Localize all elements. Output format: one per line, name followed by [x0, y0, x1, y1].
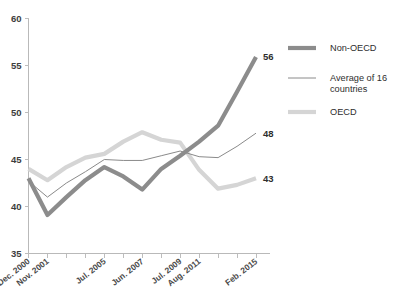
series-line-non-oecd	[29, 57, 257, 215]
x-tick-label: Jul. 2005	[74, 256, 108, 286]
y-tick-label: 60	[11, 13, 22, 24]
y-tick-label: 40	[11, 201, 22, 212]
legend-label-non-oecd: Non-OECD	[330, 43, 377, 53]
y-tick-label: 50	[11, 107, 22, 118]
x-tick-label: Feb. 2015	[223, 256, 260, 288]
legend-label-oecd: OECD	[330, 107, 357, 117]
y-tick-label: 55	[11, 60, 22, 71]
end-label-average-of-16-countries: 48	[263, 128, 274, 139]
series-end-labels: 564843	[263, 51, 274, 183]
series-lines	[29, 57, 257, 215]
x-axis-tick-labels: Dec. 2000Nov. 2001Jul. 2005Jun. 2007Jul.…	[0, 256, 259, 288]
legend-label-average-line1: Average of 16	[330, 73, 387, 83]
end-label-non-oecd: 56	[263, 51, 274, 62]
y-tick-label: 45	[11, 154, 22, 165]
legend-label-average-line2: countries	[330, 84, 368, 94]
end-label-oecd: 43	[263, 173, 274, 184]
x-axis	[29, 254, 271, 258]
y-axis: 354045505560	[11, 13, 29, 259]
chart-container: 354045505560 564843 Non-OECDAverage of 1…	[0, 0, 401, 299]
x-tick-label: Jun. 2007	[109, 256, 146, 288]
chart-legend: Non-OECDAverage of 16countriesOECD	[288, 43, 387, 117]
line-chart: 354045505560 564843 Non-OECDAverage of 1…	[0, 0, 401, 299]
y-tick-label: 35	[11, 248, 22, 259]
